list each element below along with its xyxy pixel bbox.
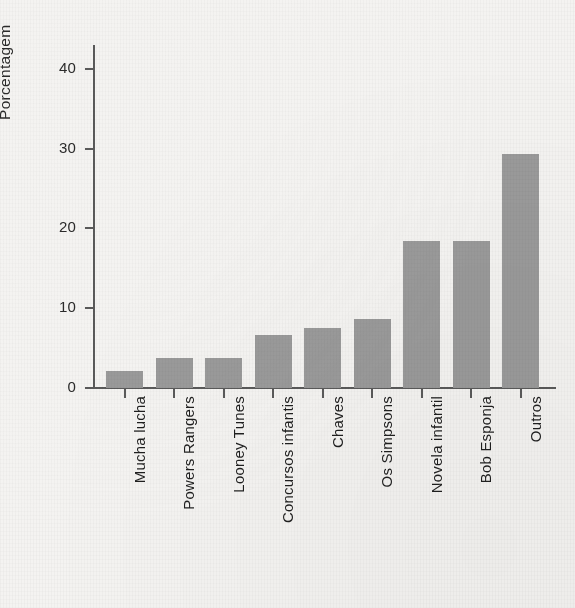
x-axis-category-label: Powers Rangers <box>180 396 197 510</box>
x-axis-category-label: Novela infantil <box>428 396 445 493</box>
y-axis-tick-label: 20 <box>40 218 76 235</box>
y-axis-title: Porcentagem <box>0 25 14 121</box>
y-axis-tick <box>85 68 93 70</box>
y-axis-tick <box>85 227 93 229</box>
x-axis-category-label: Os Simpsons <box>378 396 395 487</box>
x-axis-category-label: Chaves <box>329 396 346 448</box>
x-axis-category-label: Mucha lucha <box>131 396 148 483</box>
y-axis-tick-label: 10 <box>40 298 76 315</box>
x-axis-tick <box>371 389 373 398</box>
bar <box>304 328 341 388</box>
bar <box>205 358 242 388</box>
bar <box>453 241 490 388</box>
bar <box>156 358 193 388</box>
x-axis-tick <box>421 389 423 398</box>
bar-chart-figure: Porcentagem 010203040 Mucha luchaPowers … <box>0 0 575 608</box>
x-axis-category-label: Concursos infantis <box>279 396 296 523</box>
bar <box>354 319 391 388</box>
y-axis-tick <box>85 307 93 309</box>
y-axis-tick-label: 0 <box>40 378 76 395</box>
bar <box>502 154 539 388</box>
x-axis-tick <box>322 389 324 398</box>
x-axis-category-label: Outros <box>527 396 544 442</box>
x-axis-tick <box>272 389 274 398</box>
x-axis-category-label: Bob Esponja <box>477 396 494 483</box>
x-axis-category-label: Looney Tunes <box>230 396 247 493</box>
x-axis-tick <box>520 389 522 398</box>
bars-group <box>93 45 556 388</box>
bar <box>255 335 292 388</box>
y-axis-tick-label: 30 <box>40 139 76 156</box>
y-axis-tick <box>85 148 93 150</box>
x-axis-tick <box>223 389 225 398</box>
x-axis-tick <box>470 389 472 398</box>
x-axis-tick <box>124 389 126 398</box>
x-axis-tick <box>173 389 175 398</box>
y-axis-tick-label: 40 <box>40 59 76 76</box>
y-axis-tick <box>85 387 93 389</box>
bar <box>106 371 143 388</box>
bar <box>403 241 440 388</box>
